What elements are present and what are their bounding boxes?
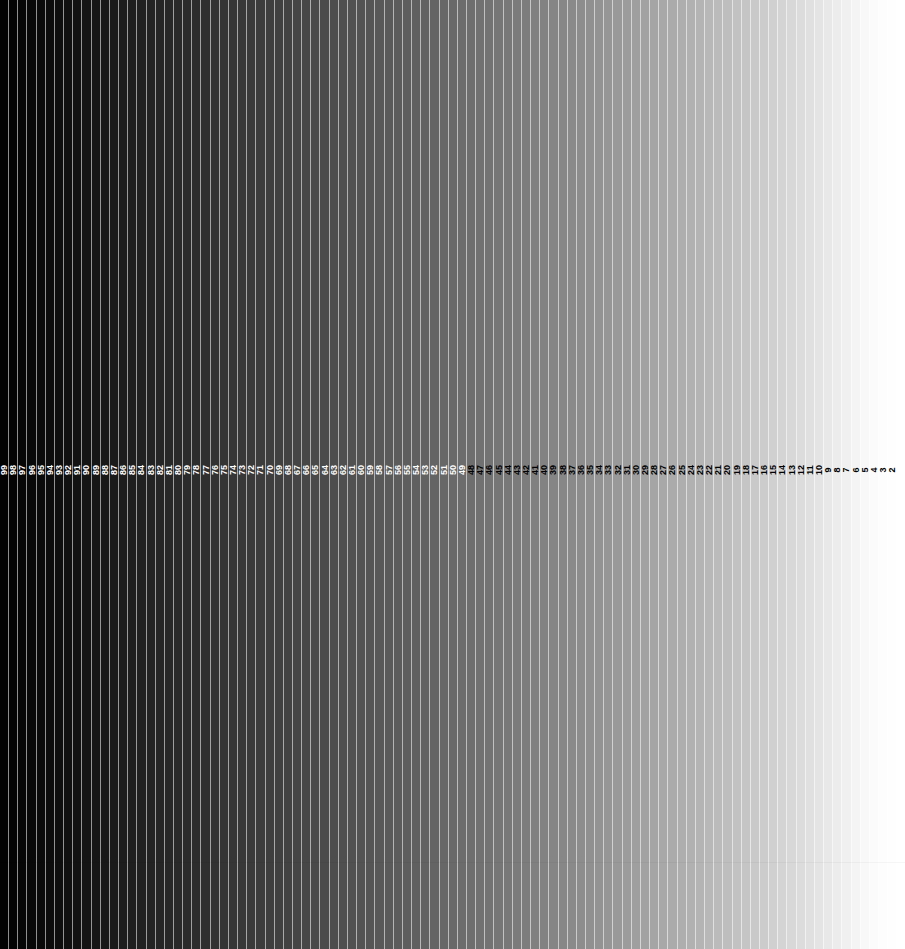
wedge-band: 19 (732, 0, 741, 949)
wedge-band: 41 (530, 0, 539, 949)
wedge-band: 27 (658, 0, 667, 949)
wedge-band: 45 (493, 0, 502, 949)
wedge-band: 33 (603, 0, 612, 949)
wedge-band: 28 (649, 0, 658, 949)
wedge-band: 30 (631, 0, 640, 949)
wedge-band: 21 (713, 0, 722, 949)
wedge-band: 24 (686, 0, 695, 949)
wedge-band: 6 (851, 0, 860, 949)
wedge-band: 43 (512, 0, 521, 949)
wedge-band (896, 0, 905, 949)
wedge-band: 64 (319, 0, 328, 949)
wedge-band: 85 (127, 0, 136, 949)
wedge-band: 23 (695, 0, 704, 949)
wedge-band: 9 (823, 0, 832, 949)
wedge-band: 71 (255, 0, 264, 949)
wedge-band: 44 (503, 0, 512, 949)
wedge-band: 13 (786, 0, 795, 949)
wedge-band: 92 (63, 0, 72, 949)
wedge-band: 10 (814, 0, 823, 949)
wedge-band: 90 (81, 0, 90, 949)
wedge-band: 2 (887, 0, 896, 949)
wedge-band: 15 (768, 0, 777, 949)
wedge-band: 65 (310, 0, 319, 949)
wedge-band: 40 (539, 0, 548, 949)
wedge-band: 83 (146, 0, 155, 949)
wedge-band: 16 (759, 0, 768, 949)
wedge-band: 60 (356, 0, 365, 949)
wedge-band: 62 (338, 0, 347, 949)
wedge-band: 87 (109, 0, 118, 949)
wedge-band: 88 (100, 0, 109, 949)
wedge-band: 4 (869, 0, 878, 949)
wedge-band: 73 (237, 0, 246, 949)
wedge-band: 94 (45, 0, 54, 949)
wedge-band: 57 (384, 0, 393, 949)
wedge-band: 89 (91, 0, 100, 949)
wedge-band: 52 (429, 0, 438, 949)
wedge-band: 39 (548, 0, 557, 949)
wedge-band: 79 (182, 0, 191, 949)
wedge-band: 18 (741, 0, 750, 949)
wedge-band: 22 (704, 0, 713, 949)
wedge-band: 35 (585, 0, 594, 949)
wedge-band: 61 (347, 0, 356, 949)
wedge-band: 47 (475, 0, 484, 949)
wedge-band: 58 (374, 0, 383, 949)
wedge-band: 48 (466, 0, 475, 949)
wedge-band: 38 (558, 0, 567, 949)
wedge-band: 32 (612, 0, 621, 949)
wedge-band: 91 (72, 0, 81, 949)
wedge-band: 29 (640, 0, 649, 949)
wedge-band: 70 (265, 0, 274, 949)
wedge-band: 53 (420, 0, 429, 949)
wedge-band: 50 (448, 0, 457, 949)
wedge-band: 95 (36, 0, 45, 949)
wedge-band: 59 (365, 0, 374, 949)
wedge-band: 84 (136, 0, 145, 949)
wedge-band: 7 (841, 0, 850, 949)
wedge-band: 81 (164, 0, 173, 949)
wedge-band: 69 (274, 0, 283, 949)
wedge-band: 5 (860, 0, 869, 949)
wedge-band: 37 (567, 0, 576, 949)
wedge-band: 26 (667, 0, 676, 949)
wedge-band: 77 (200, 0, 209, 949)
wedge-band: 63 (329, 0, 338, 949)
wedge-band: 25 (677, 0, 686, 949)
wedge-band: 74 (228, 0, 237, 949)
wedge-band: 67 (292, 0, 301, 949)
wedge-band: 42 (521, 0, 530, 949)
wedge-band: 80 (173, 0, 182, 949)
wedge-band: 72 (246, 0, 255, 949)
wedge-band: 66 (301, 0, 310, 949)
wedge-band: 8 (832, 0, 841, 949)
wedge-band: 11 (805, 0, 814, 949)
wedge-band: 97 (17, 0, 26, 949)
grayscale-step-wedge: 9998979695949392919089888786858483828180… (0, 0, 905, 949)
wedge-band: 14 (777, 0, 786, 949)
wedge-band: 12 (796, 0, 805, 949)
wedge-band: 99 (0, 0, 8, 949)
wedge-band: 76 (210, 0, 219, 949)
wedge-band: 68 (283, 0, 292, 949)
wedge-band: 96 (26, 0, 35, 949)
wedge-band: 75 (219, 0, 228, 949)
wedge-band: 55 (402, 0, 411, 949)
wedge-band: 49 (457, 0, 466, 949)
wedge-band: 93 (54, 0, 63, 949)
wedge-band: 46 (484, 0, 493, 949)
wedge-band: 31 (622, 0, 631, 949)
wedge-band: 98 (8, 0, 17, 949)
wedge-band: 82 (155, 0, 164, 949)
wedge-band: 54 (411, 0, 420, 949)
wedge-band: 17 (750, 0, 759, 949)
wedge-band: 51 (439, 0, 448, 949)
wedge-band: 36 (576, 0, 585, 949)
wedge-band: 56 (393, 0, 402, 949)
wedge-band: 86 (118, 0, 127, 949)
wedge-band: 3 (878, 0, 887, 949)
wedge-band: 20 (722, 0, 731, 949)
wedge-band: 34 (594, 0, 603, 949)
wedge-band: 78 (191, 0, 200, 949)
